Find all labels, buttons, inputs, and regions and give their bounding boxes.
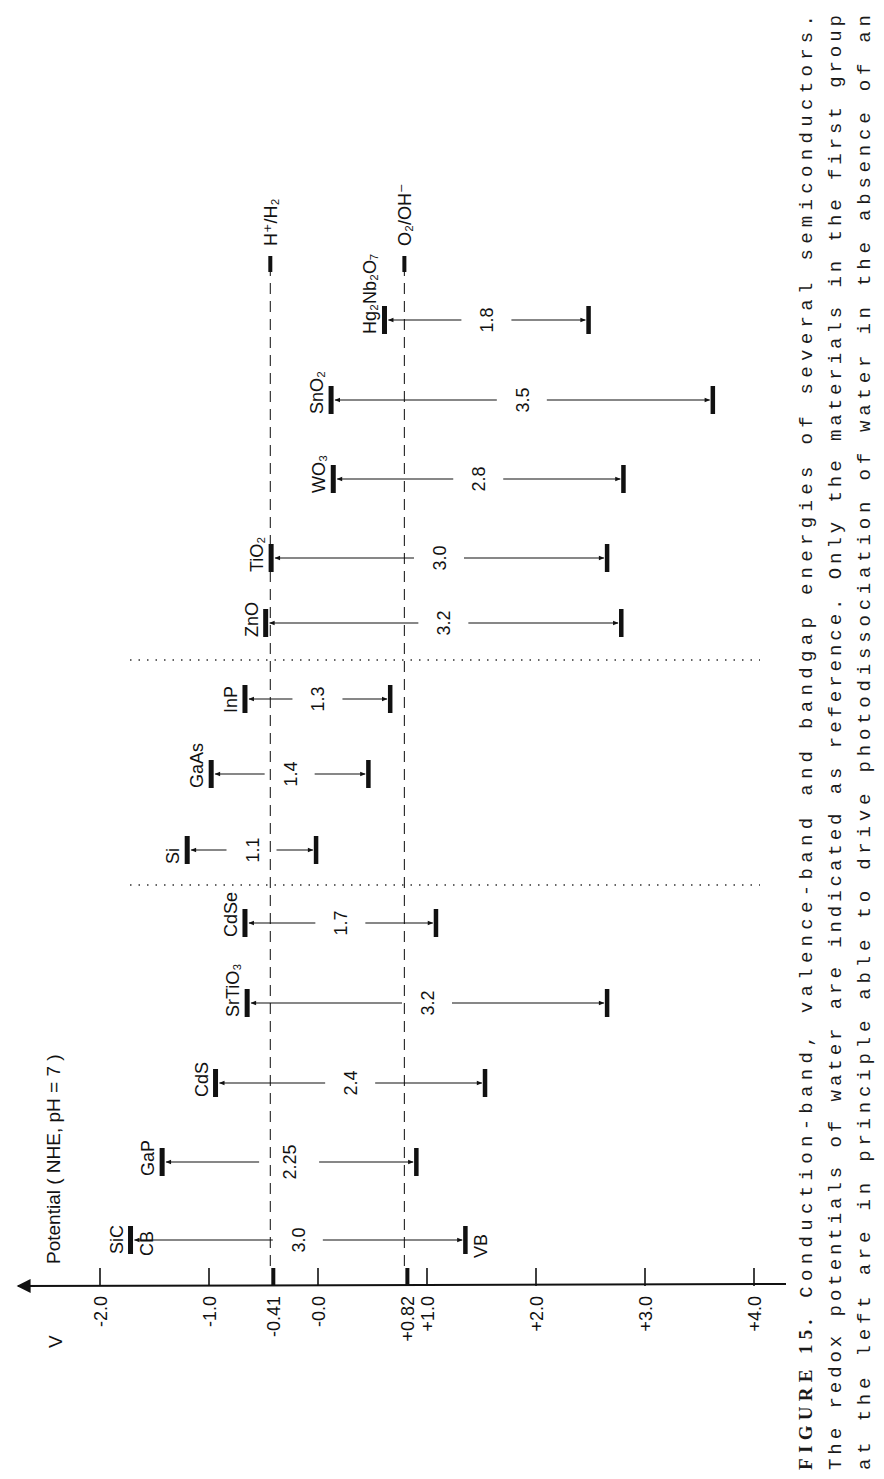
- material-srtio3: 3.2SrTiO₃: [223, 963, 609, 1017]
- potential-axis: VPotential ( NHE, pH = 7 )-2.0-1.0-0.41-…: [18, 1054, 786, 1348]
- cb-bar: [185, 836, 190, 864]
- material-label: TiO₂: [247, 537, 267, 572]
- material-label: GaP: [138, 1140, 158, 1176]
- figure-caption: FIGURE 15. Conduction-band, valence-band…: [795, 15, 876, 1470]
- vb-bar: [621, 465, 626, 493]
- cb-bar: [213, 1069, 218, 1097]
- cb-bar: [269, 544, 274, 572]
- axis-tick-label: +2.0: [527, 1296, 547, 1332]
- material-label: SiC: [107, 1225, 127, 1254]
- material-label: SnO₂: [307, 371, 327, 414]
- bandgap-value: 2.8: [469, 466, 489, 491]
- axis-unit-label: V: [45, 1335, 66, 1348]
- vb-bar: [483, 1069, 488, 1097]
- bandgap-value: 3.0: [289, 1227, 309, 1252]
- axis-line: [18, 1284, 786, 1286]
- axis-tick-label: -2.0: [91, 1296, 111, 1327]
- material-bands: 3.0SiCCBVB2.25GaP2.4CdS3.2SrTiO₃1.7CdSe1…: [107, 254, 716, 1258]
- band-diagram-chart: H⁺/H₂O₂/OH⁻ VPotential ( NHE, pH = 7 )-2…: [0, 0, 884, 1479]
- material-label: SrTiO₃: [223, 963, 243, 1017]
- material-sic: 3.0SiCCBVB: [107, 1225, 492, 1258]
- band-energy-figure: H⁺/H₂O₂/OH⁻ VPotential ( NHE, pH = 7 )-2…: [0, 0, 884, 1479]
- cb-bar: [382, 306, 387, 334]
- axis-tick-label: -0.0: [309, 1296, 329, 1327]
- reference-label: O₂/OH⁻: [395, 184, 415, 247]
- bandgap-value: 1.3: [308, 686, 328, 711]
- material-hg2nb2o7: 1.8Hg₂Nb₂O₇: [360, 254, 590, 334]
- axis-tick-label: +1.0: [418, 1296, 438, 1332]
- cb-bar: [242, 909, 247, 937]
- bandgap-value: 2.4: [341, 1070, 361, 1095]
- caption-line-2: The redox potentials of water are indica…: [825, 15, 847, 1470]
- material-cdse: 1.7CdSe: [221, 892, 438, 937]
- material-label: Hg₂Nb₂O₇: [360, 254, 380, 334]
- material-label: CdS: [192, 1062, 212, 1097]
- cb-bar: [160, 1148, 165, 1176]
- bandgap-value: 1.4: [281, 761, 301, 786]
- axis-title: Potential ( NHE, pH = 7 ): [43, 1054, 64, 1264]
- bandgap-value: 2.25: [280, 1144, 300, 1179]
- cb-bar: [331, 465, 336, 493]
- vb-label: VB: [471, 1234, 491, 1258]
- material-gap: 2.25GaP: [138, 1140, 418, 1180]
- vb-bar: [388, 685, 393, 713]
- cb-bar: [209, 760, 214, 788]
- material-wo3: 2.8WO₃: [309, 455, 625, 493]
- vb-bar: [414, 1148, 419, 1176]
- axis-tick-label: -0.41: [264, 1296, 284, 1337]
- material-label: ZnO: [242, 602, 262, 637]
- reference-lines: H⁺/H₂O₂/OH⁻: [261, 184, 415, 1267]
- vb-bar: [463, 1226, 468, 1254]
- vb-bar: [711, 386, 716, 414]
- material-label: CdSe: [221, 892, 241, 937]
- vb-bar: [366, 760, 371, 788]
- cb-bar: [242, 685, 247, 713]
- vb-bar: [619, 609, 624, 637]
- material-inp: 1.3InP: [221, 685, 392, 713]
- bandgap-value: 1.8: [477, 307, 497, 332]
- material-gaas: 1.4GaAs: [187, 743, 370, 788]
- axis-tick-label: +4.0: [745, 1296, 765, 1332]
- bandgap-value: 3.5: [513, 387, 533, 412]
- vb-bar: [314, 836, 319, 864]
- caption-line-3: at the left are in principle able to dri…: [854, 15, 876, 1470]
- vb-bar: [434, 909, 439, 937]
- reference-label: H⁺/H₂: [261, 199, 281, 247]
- material-sno2: 3.5SnO₂: [307, 371, 715, 414]
- cb-label: CB: [137, 1231, 157, 1256]
- cb-bar: [128, 1226, 133, 1254]
- bandgap-value: 3.2: [418, 990, 438, 1015]
- material-zno: 3.2ZnO: [242, 602, 624, 637]
- material-label: Si: [163, 848, 183, 864]
- axis-tick-label: -1.0: [200, 1296, 220, 1327]
- material-tio2: 3.0TiO₂: [247, 537, 609, 572]
- figure-label: FIGURE 15.: [795, 1320, 816, 1470]
- cb-bar: [245, 989, 250, 1017]
- axis-tick-label: +0.82: [398, 1296, 418, 1342]
- bandgap-value: 1.7: [331, 910, 351, 935]
- bandgap-value: 3.0: [430, 545, 450, 570]
- bandgap-value: 3.2: [434, 610, 454, 635]
- material-label: WO₃: [309, 455, 329, 493]
- cb-bar: [263, 609, 268, 637]
- caption-text: Conduction-band, valence-band and bandga…: [796, 15, 818, 1314]
- cb-bar: [329, 386, 334, 414]
- vb-bar: [586, 306, 591, 334]
- vb-bar: [605, 989, 610, 1017]
- material-cds: 2.4CdS: [192, 1062, 488, 1097]
- axis-tick-label: +3.0: [636, 1296, 656, 1332]
- material-si: 1.1Si: [163, 836, 318, 864]
- vb-bar: [605, 544, 610, 572]
- material-label: InP: [221, 686, 241, 713]
- caption-line-1: FIGURE 15. Conduction-band, valence-band…: [795, 15, 818, 1470]
- material-label: GaAs: [187, 743, 207, 788]
- bandgap-value: 1.1: [243, 837, 263, 862]
